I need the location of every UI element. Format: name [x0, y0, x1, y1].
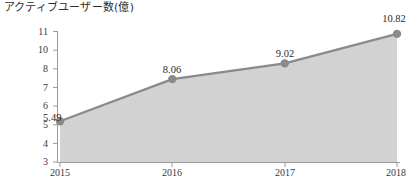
data-point-label: 5.49 — [39, 112, 89, 123]
y-tick-label: 3 — [26, 157, 48, 167]
data-point-marker — [393, 30, 401, 38]
area-fill — [60, 34, 397, 162]
x-tick-label: 2017 — [263, 167, 307, 178]
chart-plot-area — [0, 0, 418, 181]
data-point-marker — [281, 59, 289, 67]
x-tick-label: 2015 — [38, 167, 82, 178]
x-tick-label: 2018 — [374, 167, 418, 178]
y-tick-label: 6 — [26, 101, 48, 111]
y-tick-label: 10 — [26, 45, 48, 55]
data-point-label: 9.02 — [262, 48, 308, 59]
x-tick-label: 2016 — [150, 167, 194, 178]
y-tick-label: 4 — [26, 139, 48, 149]
chart-container: アクティブユーザー数(億) — [0, 0, 418, 181]
data-point-label: 10.82 — [371, 13, 417, 24]
y-tick-label: 11 — [26, 27, 48, 37]
y-tick-label: 7 — [26, 83, 48, 93]
data-point-label: 8.06 — [149, 64, 195, 75]
y-tick-label: 8 — [26, 64, 48, 74]
data-point-marker — [168, 75, 176, 83]
